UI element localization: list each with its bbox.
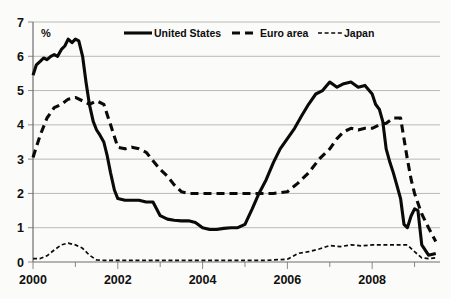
y-axis-labels-group: 01234567 bbox=[17, 16, 24, 270]
x-tick-label-2004: 2004 bbox=[189, 273, 217, 287]
y-tick-label-5: 5 bbox=[17, 84, 24, 98]
y-tick-label-7: 7 bbox=[17, 16, 24, 30]
legend-label-japan: Japan bbox=[344, 27, 374, 39]
y-tick-label-2: 2 bbox=[17, 187, 24, 201]
chart-legend: United StatesEuro areaJapan bbox=[124, 27, 374, 39]
y-tick-label-0: 0 bbox=[17, 256, 24, 270]
series-group bbox=[33, 39, 436, 260]
y-tick-label-4: 4 bbox=[17, 118, 24, 132]
series-line-japan bbox=[33, 243, 436, 260]
y-tick-marks-group bbox=[28, 22, 33, 262]
chart-canvas: 01234567 20002002200420062008 % United S… bbox=[0, 0, 451, 299]
y-tick-label-6: 6 bbox=[17, 50, 24, 64]
x-axis-labels-group: 20002002200420062008 bbox=[19, 273, 386, 287]
x-tick-marks-group bbox=[33, 262, 415, 269]
y-tick-label-3: 3 bbox=[17, 153, 24, 167]
x-tick-label-2000: 2000 bbox=[19, 273, 47, 287]
series-line-united-states bbox=[33, 39, 436, 255]
legend-label-united-states: United States bbox=[154, 27, 221, 39]
x-tick-label-2002: 2002 bbox=[104, 273, 132, 287]
x-tick-label-2008: 2008 bbox=[358, 273, 386, 287]
legend-label-euro-area: Euro area bbox=[260, 27, 309, 39]
percent-unit-label: % bbox=[41, 27, 51, 39]
y-tick-label-1: 1 bbox=[17, 221, 24, 235]
interest-rate-line-chart: 01234567 20002002200420062008 % United S… bbox=[0, 0, 451, 299]
x-tick-label-2006: 2006 bbox=[273, 273, 301, 287]
